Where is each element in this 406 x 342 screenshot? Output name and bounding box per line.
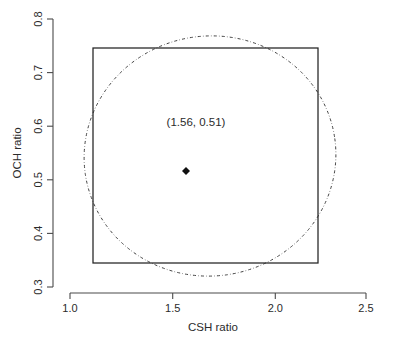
y-tick-label-0.4: 0.4 xyxy=(32,226,44,241)
x-tick-label-2.5: 2.5 xyxy=(358,302,373,314)
point-coordinate-annotation: (1.56, 0.51) xyxy=(167,116,226,128)
y-tick-label-0.3: 0.3 xyxy=(32,279,44,294)
confidence-rectangle xyxy=(93,48,318,263)
y-tick-label-0.5: 0.5 xyxy=(32,172,44,187)
y-tick-label-0.6: 0.6 xyxy=(32,119,44,134)
x-axis: 1.0 1.5 2.0 2.5 CSH ratio xyxy=(62,293,373,333)
point-core xyxy=(184,169,188,173)
x-axis-title: CSH ratio xyxy=(188,321,238,333)
confidence-ellipse xyxy=(69,20,352,293)
chart-svg: 0.8 0.7 0.6 0.5 0.4 0.3 OCH ratio 1.0 1.… xyxy=(0,0,406,342)
x-tick-label-1.0: 1.0 xyxy=(62,302,77,314)
y-tick-label-0.7: 0.7 xyxy=(32,65,44,80)
x-tick-label-2.0: 2.0 xyxy=(268,302,283,314)
estimate-point-marker xyxy=(182,167,190,175)
x-tick-label-1.5: 1.5 xyxy=(165,302,180,314)
y-axis: 0.8 0.7 0.6 0.5 0.4 0.3 OCH ratio xyxy=(11,11,53,294)
y-tick-label-0.8: 0.8 xyxy=(32,11,44,26)
y-axis-title: OCH ratio xyxy=(11,127,23,178)
chart-plot-area: 0.8 0.7 0.6 0.5 0.4 0.3 OCH ratio 1.0 1.… xyxy=(0,0,406,342)
